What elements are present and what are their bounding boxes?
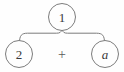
tree-svg-canvas: 1 2 a + [0,0,124,72]
node-child-right[interactable]: a [92,41,119,68]
expression-tree-diagram: 1 2 a + [0,0,124,72]
brace-connector-group [20,30,105,43]
node-child-right-label: a [102,47,109,62]
node-root-1[interactable]: 1 [49,4,76,31]
node-child-left-label: 2 [16,47,23,62]
node-child-left[interactable]: 2 [6,41,33,68]
operator-plus-label: + [58,47,66,62]
node-root-label: 1 [59,10,66,25]
brace-connector-path [20,30,105,43]
